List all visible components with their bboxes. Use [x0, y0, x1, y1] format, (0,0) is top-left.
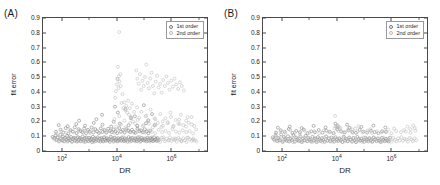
y-tick-label: 0.1	[31, 133, 40, 140]
data-point	[390, 132, 393, 135]
data-point	[161, 120, 164, 123]
data-point	[125, 104, 128, 107]
data-point	[412, 124, 415, 127]
data-point	[57, 124, 60, 127]
y-tick-mark	[263, 121, 266, 122]
data-point	[134, 122, 137, 125]
data-point	[182, 89, 185, 92]
data-point	[187, 121, 190, 124]
data-point	[133, 110, 136, 113]
data-point	[164, 129, 167, 132]
data-point	[332, 132, 335, 135]
data-point	[175, 140, 178, 143]
y-tick-mark	[424, 18, 427, 19]
data-point	[306, 132, 309, 135]
legend-entry-2nd-order: 2nd order	[389, 31, 420, 37]
panel-a-xlabel: DR	[42, 166, 208, 175]
data-point	[402, 139, 405, 142]
data-point	[178, 81, 181, 84]
data-point	[169, 111, 172, 114]
data-point	[384, 126, 387, 129]
data-point	[312, 124, 315, 127]
panel-b-ylabel: fit error	[227, 17, 239, 152]
y-tick-label: 0.1	[251, 133, 260, 140]
y-tick-mark	[204, 91, 207, 92]
data-point	[75, 123, 78, 126]
y-tick-mark	[204, 77, 207, 78]
data-point	[170, 79, 173, 82]
y-tick-mark	[263, 77, 266, 78]
data-point	[164, 117, 167, 120]
data-point	[165, 75, 168, 78]
y-tick-mark	[263, 106, 266, 107]
data-point	[280, 133, 283, 136]
data-point	[275, 136, 278, 139]
data-point	[387, 128, 390, 131]
data-point	[151, 85, 154, 88]
data-point	[123, 101, 126, 104]
data-point	[105, 131, 108, 134]
y-tick-mark	[263, 18, 266, 19]
data-point	[171, 85, 174, 88]
y-tick-mark	[424, 77, 427, 78]
data-point	[168, 88, 171, 91]
data-point	[178, 118, 181, 121]
data-point	[400, 136, 403, 139]
legend-entry-2nd-order: 2nd order	[169, 31, 200, 37]
legend-label-1st-order: 1st order	[176, 24, 198, 30]
y-tick-label: 0.3	[31, 103, 40, 110]
legend-label-2nd-order: 2nd order	[396, 31, 420, 37]
data-point	[180, 85, 183, 88]
data-point	[116, 132, 119, 135]
data-point	[317, 129, 320, 132]
data-point	[276, 126, 279, 129]
data-point	[182, 137, 185, 140]
data-point	[157, 128, 160, 131]
legend-entry-1st-order: 1st order	[389, 24, 420, 30]
data-point	[195, 128, 198, 131]
y-tick-label: 0.3	[251, 103, 260, 110]
x-minor-tick-mark	[309, 18, 310, 20]
x-tick-mark	[62, 148, 63, 151]
panel-b-plot-area: 1st order 2nd order 00.10.20.30.40.50.60…	[262, 17, 428, 152]
x-tick-label: 104	[332, 154, 342, 163]
panel-a-ylabel: fit error	[7, 17, 19, 152]
x-minor-tick-mark	[418, 149, 419, 151]
data-point	[193, 124, 196, 127]
data-point	[144, 76, 147, 79]
x-tick-label: 104	[112, 154, 122, 163]
data-point	[175, 83, 178, 86]
data-point	[121, 93, 124, 96]
data-point	[160, 91, 163, 94]
data-point	[140, 110, 143, 113]
y-tick-mark	[263, 151, 266, 152]
x-tick-mark	[282, 148, 283, 151]
data-point	[181, 129, 184, 132]
data-point	[156, 121, 159, 124]
x-minor-tick-mark	[198, 149, 199, 151]
y-tick-label: 0.5	[251, 74, 260, 81]
y-tick-mark	[424, 47, 427, 48]
y-tick-label: 0.9	[251, 15, 260, 22]
data-point	[146, 82, 149, 85]
data-point	[166, 82, 169, 85]
data-point	[150, 71, 153, 74]
data-point	[135, 69, 138, 72]
y-tick-mark	[204, 151, 207, 152]
y-tick-mark	[43, 136, 46, 137]
y-tick-mark	[263, 91, 266, 92]
data-point	[169, 116, 172, 119]
x-tick-mark	[116, 18, 117, 21]
data-point	[162, 79, 165, 82]
y-tick-mark	[424, 151, 427, 152]
legend-label-1st-order: 1st order	[396, 24, 418, 30]
data-point	[106, 130, 109, 133]
data-point	[313, 130, 316, 133]
data-point	[398, 139, 401, 142]
data-point	[101, 123, 104, 126]
y-tick-mark	[263, 62, 266, 63]
data-point	[101, 113, 104, 116]
data-point	[409, 131, 412, 134]
panel-b: (B) fit error 1st order 2nd order 00.10.…	[220, 0, 440, 185]
x-minor-tick-mark	[418, 18, 419, 20]
